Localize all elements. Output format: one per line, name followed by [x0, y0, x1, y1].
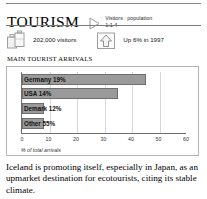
ratio-label: Visitors : population: [105, 15, 152, 22]
visitors-text: 202,000 visitors: [33, 36, 76, 44]
stats-row: 202,000 visitors Up 6% in 1997: [6, 28, 201, 52]
xtick-0: 0: [21, 136, 24, 142]
bar-label-germany: Germany 19%: [24, 75, 66, 84]
xtick-50: 50: [156, 136, 162, 142]
title-underline: [6, 25, 201, 26]
stat-visitors: 202,000 visitors: [6, 30, 76, 51]
xtick-40: 40: [128, 136, 134, 142]
bar-label-usa: USA 14%: [24, 89, 51, 98]
up-arrow-icon: [96, 30, 117, 51]
bar-label-demark: Demark 12%: [24, 104, 61, 113]
bar-label-other: Other 55%: [24, 119, 55, 128]
luggage-icon: [6, 30, 27, 51]
xtick-60: 60: [183, 136, 189, 142]
xtick-20: 20: [73, 136, 79, 142]
x-axis-label: % of total arrivals: [21, 147, 61, 153]
chart-container: Germany 19% USA 14% Demark 12% Other 55%…: [6, 66, 199, 156]
ratio-text-wrap: Visitors : population 1:1.4: [105, 15, 152, 28]
chart-heading: MAIN TOURIST ARRIVALS: [7, 55, 92, 62]
xtick-10: 10: [46, 136, 52, 142]
gridline-50: [160, 72, 161, 133]
chart-plot-area: Germany 19% USA 14% Demark 12% Other 55%: [21, 72, 186, 134]
stat-growth: Up 6% in 1997: [96, 30, 164, 51]
xtick-30: 30: [101, 136, 107, 142]
growth-text: Up 6% in 1997: [123, 36, 164, 44]
body-text: Iceland is promoting itself, especially …: [6, 162, 202, 196]
tourism-page: TOURISM Visitors : population 1:1.4: [0, 0, 207, 199]
